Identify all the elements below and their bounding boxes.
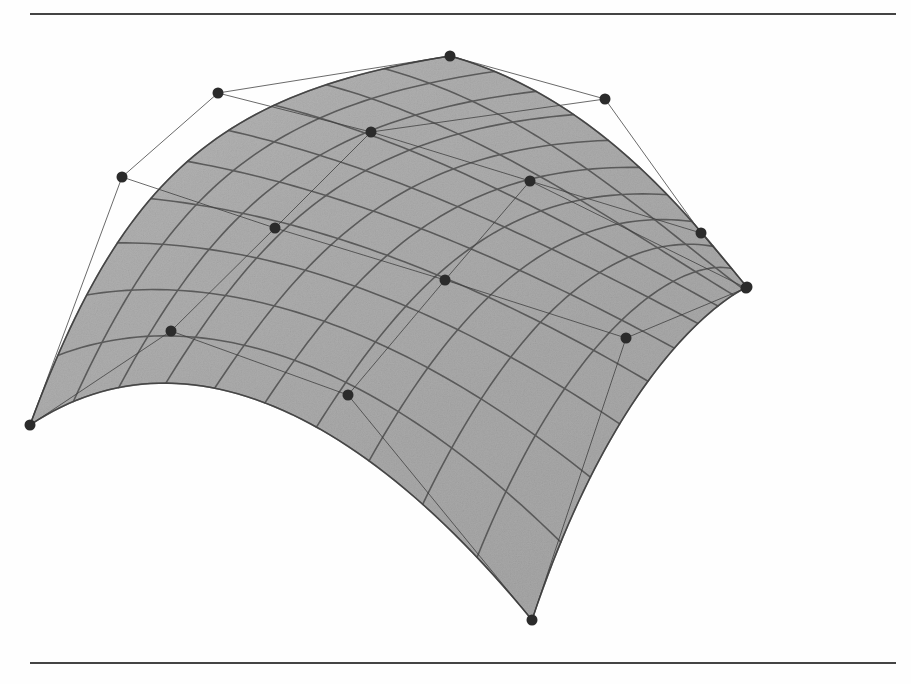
control-point[interactable] <box>166 326 177 337</box>
control-point[interactable] <box>621 333 632 344</box>
figure-page <box>0 0 911 684</box>
control-point[interactable] <box>440 275 451 286</box>
control-point[interactable] <box>213 88 224 99</box>
control-point[interactable] <box>696 228 707 239</box>
control-point[interactable] <box>117 172 128 183</box>
control-point[interactable] <box>600 94 611 105</box>
surface-grain <box>0 0 911 684</box>
control-point[interactable] <box>445 51 456 62</box>
control-point[interactable] <box>270 223 281 234</box>
control-point[interactable] <box>527 615 538 626</box>
horizontal-rule-bottom <box>30 662 896 664</box>
control-point[interactable] <box>525 176 536 187</box>
control-point[interactable] <box>343 390 354 401</box>
control-point[interactable] <box>366 127 377 138</box>
control-point[interactable] <box>742 282 753 293</box>
surface-patch-group <box>0 0 911 684</box>
control-point[interactable] <box>25 420 36 431</box>
bezier-surface-figure <box>0 0 911 684</box>
